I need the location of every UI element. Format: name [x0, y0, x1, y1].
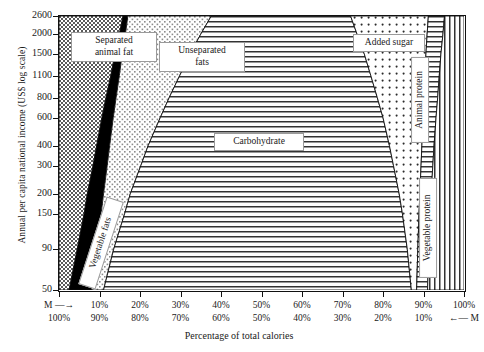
band-label-added-sugar: Added sugar	[353, 34, 425, 52]
x-tick-mark	[302, 292, 303, 297]
y-tick-label: 2000	[18, 27, 52, 38]
x-tick-mark	[424, 292, 425, 297]
x-tick-mark	[464, 292, 465, 297]
y-tick-label: 90	[18, 242, 52, 253]
x-tick-mark	[181, 292, 182, 297]
x-axis-title: Percentage of total calories	[0, 330, 478, 341]
y-tick-label: 300	[18, 159, 52, 170]
x-tick-mark	[100, 292, 101, 297]
x-tick-mark	[140, 292, 141, 297]
band-label-unseparated-fats: Unseparated fats	[159, 42, 245, 72]
y-tick-label: 150	[18, 207, 52, 218]
y-tick-label: 2600	[18, 9, 52, 20]
x-tick-mark	[262, 292, 263, 297]
plot-area: Separated animal fat Unseparated fats Ve…	[58, 15, 466, 292]
band-label-carbohydrate: Carbohydrate	[214, 133, 304, 151]
x-tick-mark	[59, 292, 60, 297]
y-tick-label: 400	[18, 139, 52, 150]
y-tick-label: 600	[18, 111, 52, 122]
band-label-animal-protein: Animal protein	[411, 57, 429, 143]
x-tick-mark	[221, 292, 222, 297]
x-tick-mark	[383, 292, 384, 297]
y-tick-label: 800	[18, 91, 52, 102]
y-tick-label: 1100	[18, 69, 52, 80]
x-tick-label-bottom: ←— M	[434, 313, 484, 323]
x-tick-label-top: 100%	[434, 300, 484, 310]
y-tick-label: 200	[18, 187, 52, 198]
band-label-separated-animal-fat: Separated animal fat	[71, 32, 157, 62]
y-tick-label: 50	[18, 283, 52, 294]
x-tick-mark	[343, 292, 344, 297]
band-label-vegetable-protein: Vegetable protein	[419, 178, 437, 278]
y-tick-label: 1500	[18, 47, 52, 58]
